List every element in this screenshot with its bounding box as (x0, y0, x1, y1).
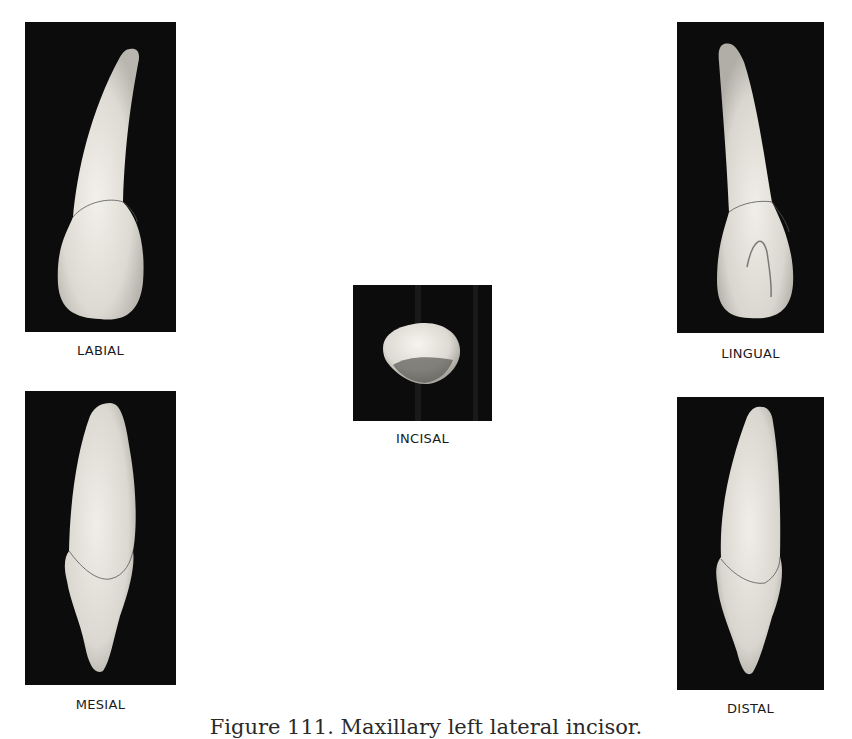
distal-view-photo (677, 397, 824, 690)
labial-label: LABIAL (25, 343, 176, 358)
tooth-lingual-image (677, 22, 824, 333)
lingual-label: LINGUAL (677, 346, 824, 361)
lingual-view-photo (677, 22, 824, 333)
tooth-mesial-image (25, 391, 176, 685)
tooth-labial-image (25, 22, 176, 332)
labial-view-photo (25, 22, 176, 332)
incisal-view-photo (353, 285, 492, 421)
figure-caption: Figure 111. Maxillary left lateral incis… (0, 715, 852, 739)
mesial-view-photo (25, 391, 176, 685)
mesial-label: MESIAL (25, 697, 176, 712)
tooth-distal-image (677, 397, 824, 690)
tooth-incisal-image (353, 285, 492, 421)
incisal-label: INCISAL (353, 431, 492, 446)
distal-label: DISTAL (677, 701, 824, 716)
